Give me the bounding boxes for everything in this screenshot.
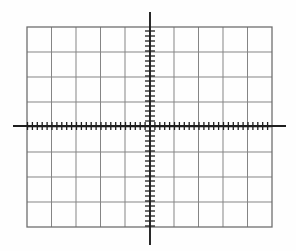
- graticule-root: Oscilloscope Graticule horizontal time a…: [0, 0, 296, 251]
- graticule-canvas: [0, 0, 296, 251]
